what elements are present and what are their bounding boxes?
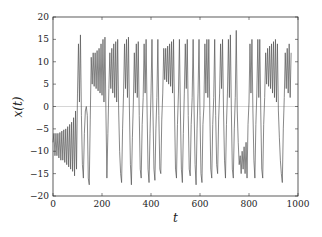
y-tick-label: −20 bbox=[30, 191, 49, 201]
y-tick-label: 15 bbox=[38, 34, 50, 44]
y-tick-label: −5 bbox=[36, 124, 50, 134]
x-tick-label: 600 bbox=[191, 199, 208, 209]
x-tick-label: 200 bbox=[93, 199, 110, 209]
y-tick-label: −10 bbox=[30, 146, 49, 156]
data-series-line bbox=[53, 30, 291, 184]
x-tick-label: 800 bbox=[240, 199, 257, 209]
x-tick-label: 400 bbox=[142, 199, 159, 209]
y-tick-label: 20 bbox=[38, 12, 50, 22]
y-axis-label: x(t) bbox=[11, 96, 25, 117]
x-tick-label: 0 bbox=[50, 199, 56, 209]
time-series-chart: 02004006008001000 −20−15−10−505101520 t … bbox=[0, 0, 322, 237]
x-tick-label: 1000 bbox=[287, 199, 310, 209]
x-axis-label: t bbox=[173, 211, 178, 225]
y-tick-label: −15 bbox=[30, 169, 49, 179]
y-tick-label: 0 bbox=[43, 102, 49, 112]
y-tick-label: 10 bbox=[38, 57, 50, 67]
y-tick-label: 5 bbox=[43, 79, 49, 89]
